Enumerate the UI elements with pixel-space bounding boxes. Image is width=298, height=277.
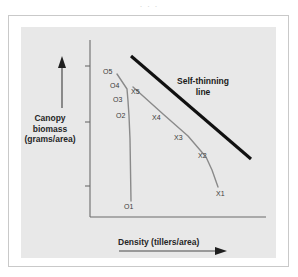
data-point-label-x1: X1 xyxy=(216,190,225,197)
y-axis-title-line-2: biomass xyxy=(14,124,86,135)
data-point-label-o5: O5 xyxy=(103,68,112,75)
self-thinning-annotation-line-2: line xyxy=(168,87,238,98)
data-point-label-x4: X4 xyxy=(152,114,161,121)
y-axis-title-line-3: (grams/area) xyxy=(14,134,86,145)
data-point-label-o4: O4 xyxy=(110,82,119,89)
data-point-label-x2: X2 xyxy=(198,152,207,159)
data-point-label-o3: O3 xyxy=(113,96,122,103)
self-thinning-line-annotation: Self-thinning line xyxy=(168,76,238,97)
x-axis-title: Density (tillers/area) xyxy=(118,237,199,247)
axis-group xyxy=(85,40,266,217)
o-series-trajectory-line xyxy=(117,74,131,201)
self-thinning-reference-line xyxy=(131,56,251,159)
y-axis-title-line-1: Canopy xyxy=(14,113,86,124)
data-point-label-x3: X3 xyxy=(174,134,183,141)
y-direction-arrow-icon xyxy=(58,56,66,108)
data-point-label-o2: O2 xyxy=(116,112,125,119)
figure-root: · · · Canopy biomass xyxy=(0,0,298,277)
data-point-label-o1: O1 xyxy=(124,203,133,210)
x-direction-arrow-icon xyxy=(119,247,227,255)
self-thinning-annotation-line-1: Self-thinning xyxy=(168,76,238,87)
y-axis-title: Canopy biomass (grams/area) xyxy=(14,113,86,145)
data-point-label-x5: X5 xyxy=(131,88,140,95)
